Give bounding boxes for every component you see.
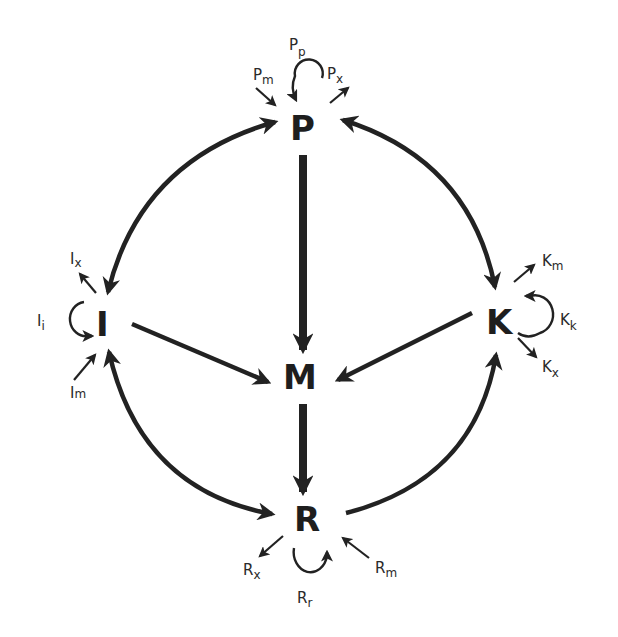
k-out-arrow-icon xyxy=(518,338,536,357)
node-p: P xyxy=(290,108,315,148)
node-m: M xyxy=(283,357,317,397)
p-self-loop-icon xyxy=(293,59,323,100)
r-out-label: Rx xyxy=(243,561,261,582)
edge-r-k-arc xyxy=(346,355,496,513)
k-self-label: Kk xyxy=(560,311,577,333)
p-out-arrow-icon xyxy=(330,88,348,103)
edge-p-k-arc xyxy=(343,120,495,287)
i-in-label: Im xyxy=(70,384,86,402)
edge-i-m-arrow xyxy=(132,324,268,382)
i-self-label: Ii xyxy=(37,312,45,333)
i-in-arrow-icon xyxy=(74,355,95,380)
r-out-arrow-icon xyxy=(260,536,283,556)
p-in-label: Pm xyxy=(253,66,274,87)
i-out-arrow-icon xyxy=(80,274,96,293)
r-flows: Rr Rx Rm xyxy=(243,536,397,610)
p-self-label: Pp xyxy=(289,36,306,59)
k-self-loop-icon xyxy=(518,295,553,336)
edge-p-i-arc xyxy=(108,122,275,292)
r-in-label: Rm xyxy=(375,559,397,580)
node-k: K xyxy=(486,302,514,342)
compartment-diagram: P I K M R Pp Pm Px Ii Ix Im Kk Km Kx Rr … xyxy=(0,0,618,637)
i-flows: Ii Ix Im xyxy=(37,250,96,402)
k-in-label: Km xyxy=(542,252,564,273)
p-out-label: Px xyxy=(327,65,343,86)
node-i: I xyxy=(96,304,109,344)
r-self-label: Rr xyxy=(297,589,312,610)
i-out-label: Ix xyxy=(70,250,82,270)
i-self-loop-icon xyxy=(70,302,92,336)
node-r: R xyxy=(294,499,320,539)
k-out-label: Kx xyxy=(542,358,559,380)
edge-k-m-arrow xyxy=(338,313,472,380)
edge-i-r-arc xyxy=(109,352,272,514)
p-in-arrow-icon xyxy=(256,88,275,105)
k-flows: Kk Km Kx xyxy=(514,252,577,380)
r-in-arrow-icon xyxy=(343,538,369,558)
p-flows: Pp Pm Px xyxy=(253,36,348,105)
k-in-arrow-icon xyxy=(514,265,534,282)
r-self-loop-icon xyxy=(294,548,327,572)
